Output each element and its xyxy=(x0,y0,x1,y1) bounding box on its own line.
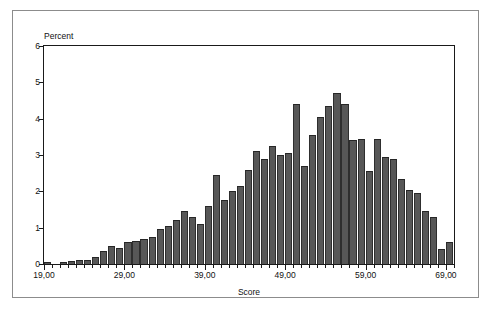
histogram-bar xyxy=(76,260,83,264)
y-axis-tick-label: 6 xyxy=(35,42,40,51)
histogram-bar xyxy=(422,211,429,264)
x-axis-tick xyxy=(269,264,270,268)
histogram-bar xyxy=(44,262,51,264)
histogram-figure: Percent 0123456 19,0029,0039,0049,0059,0… xyxy=(0,0,492,309)
x-axis-tick xyxy=(124,264,125,270)
x-axis-tick xyxy=(157,264,158,268)
x-axis-title: Score xyxy=(43,288,455,297)
histogram-bar xyxy=(189,217,196,264)
x-axis-tick xyxy=(229,264,230,268)
histogram-bar xyxy=(197,224,204,264)
x-axis-tick xyxy=(382,264,383,268)
x-axis-tick xyxy=(406,264,407,268)
x-axis-tick xyxy=(446,264,447,270)
x-axis-tick xyxy=(454,264,455,268)
histogram-bar xyxy=(358,139,365,264)
x-axis-tick xyxy=(438,264,439,268)
histogram-bar xyxy=(181,211,188,264)
x-axis-tick xyxy=(44,264,45,270)
x-axis-tick xyxy=(189,264,190,268)
x-axis-tick xyxy=(140,264,141,268)
x-axis-tick xyxy=(165,264,166,268)
x-axis-tick xyxy=(325,264,326,268)
x-axis-tick xyxy=(333,264,334,268)
histogram-bar xyxy=(124,242,131,264)
x-axis-tick xyxy=(422,264,423,268)
x-axis-tick xyxy=(116,264,117,268)
x-axis-tick xyxy=(76,264,77,268)
x-axis-tick xyxy=(261,264,262,268)
histogram-bars xyxy=(44,46,454,264)
x-axis-tick xyxy=(414,264,415,268)
histogram-bar xyxy=(333,93,340,264)
x-axis-tick xyxy=(301,264,302,268)
x-axis-tick xyxy=(108,264,109,268)
histogram-bar xyxy=(285,153,292,264)
histogram-bar xyxy=(60,262,67,264)
x-axis-tick xyxy=(285,264,286,270)
histogram-bar xyxy=(157,229,164,264)
y-axis-tick-label: 3 xyxy=(35,151,40,160)
y-axis-tick-label: 1 xyxy=(35,223,40,232)
y-axis-title: Percent xyxy=(44,32,73,41)
histogram-bar xyxy=(309,135,316,264)
histogram-bar xyxy=(68,261,75,264)
histogram-bar xyxy=(245,170,252,264)
x-axis-tick xyxy=(245,264,246,268)
histogram-bar xyxy=(261,159,268,264)
x-axis-tick xyxy=(398,264,399,268)
histogram-bar xyxy=(253,151,260,264)
histogram-bar xyxy=(382,157,389,264)
histogram-bar xyxy=(414,193,421,264)
x-axis-tick-label: 19,00 xyxy=(33,271,54,280)
x-axis-tick xyxy=(92,264,93,268)
x-axis-tick xyxy=(349,264,350,268)
y-axis-tick-label: 5 xyxy=(35,78,40,87)
histogram-bar xyxy=(277,155,284,264)
histogram-bar xyxy=(237,186,244,264)
x-axis-tick xyxy=(68,264,69,268)
x-axis-tick xyxy=(205,264,206,270)
histogram-bar xyxy=(446,242,453,264)
histogram-bar xyxy=(173,220,180,264)
y-axis-tick-label: 2 xyxy=(35,187,40,196)
x-axis-tick-label: 39,00 xyxy=(194,271,215,280)
histogram-bar xyxy=(92,257,99,264)
x-axis-tick xyxy=(237,264,238,268)
x-axis-tick-label: 69,00 xyxy=(435,271,456,280)
y-axis-tick-label: 4 xyxy=(35,114,40,123)
histogram-bar xyxy=(149,237,156,264)
histogram-bar xyxy=(317,117,324,264)
x-axis-tick-label: 49,00 xyxy=(275,271,296,280)
plot-area: 0123456 19,0029,0039,0049,0059,0069,00 xyxy=(43,45,455,265)
x-axis-tick xyxy=(358,264,359,268)
histogram-bar xyxy=(213,175,220,264)
histogram-bar xyxy=(325,106,332,264)
x-axis-tick xyxy=(309,264,310,268)
x-axis-tick xyxy=(253,264,254,268)
histogram-bar xyxy=(269,146,276,264)
histogram-bar xyxy=(108,246,115,264)
x-axis-tick-label: 29,00 xyxy=(114,271,135,280)
x-axis-tick xyxy=(277,264,278,268)
x-axis-tick xyxy=(149,264,150,268)
x-axis-tick xyxy=(430,264,431,268)
histogram-bar xyxy=(301,166,308,264)
histogram-bar xyxy=(398,179,405,264)
x-axis-tick xyxy=(84,264,85,268)
x-axis-tick xyxy=(132,264,133,268)
y-axis-tick-label: 0 xyxy=(35,260,40,269)
x-axis-tick xyxy=(100,264,101,268)
histogram-bar xyxy=(221,200,228,264)
x-axis-tick-label: 59,00 xyxy=(355,271,376,280)
x-axis-tick xyxy=(390,264,391,268)
x-axis-tick xyxy=(60,264,61,268)
histogram-bar xyxy=(205,206,212,264)
histogram-bar xyxy=(349,140,356,264)
histogram-bar xyxy=(438,249,445,264)
x-axis-tick xyxy=(197,264,198,268)
histogram-bar xyxy=(229,191,236,264)
histogram-bar xyxy=(165,226,172,264)
histogram-bar xyxy=(341,104,348,264)
histogram-bar xyxy=(140,239,147,264)
